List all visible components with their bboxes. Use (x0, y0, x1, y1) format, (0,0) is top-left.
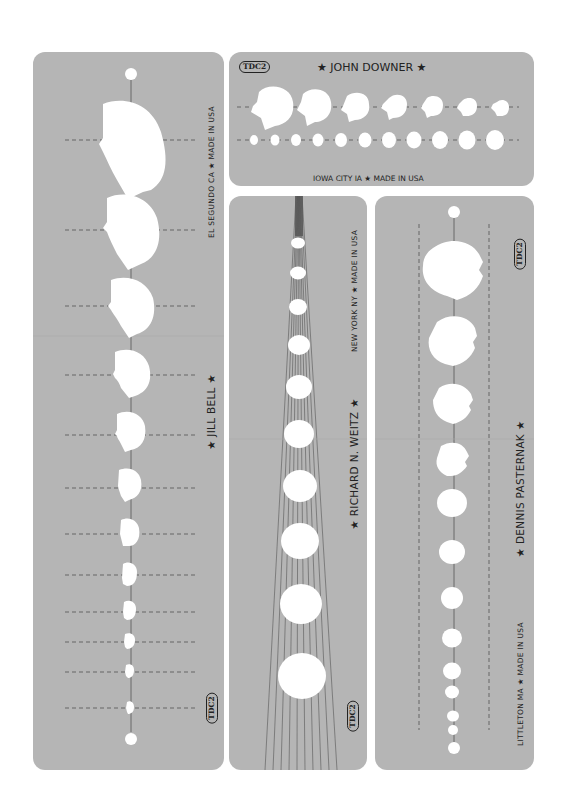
dennis-pasternak-name: ★ DENNIS PASTERNAK ★ (514, 421, 526, 558)
richard-weitz-template: NEW YORK NY ★ MADE IN USA ★ RICHARD N. W… (229, 196, 367, 770)
jill-bell-template: EL SEGUNDO CA ★ MADE IN USA ★ JILL BELL … (33, 52, 224, 770)
dennis-pasternak-origin-text: LITTLETON MA ★ MADE IN USA (516, 622, 525, 746)
jill-bell-head-cutouts (33, 52, 224, 770)
richard-weitz-origin-text: NEW YORK NY ★ MADE IN USA (350, 230, 359, 352)
dennis-pasternak-template: TDC2 ★ DENNIS PASTERNAK ★ LITTLETON MA ★… (375, 196, 534, 770)
john-downer-origin-text: IOWA CITY IA ★ MADE IN USA (313, 174, 424, 183)
richard-weitz-name: ★ RICHARD N. WEITZ ★ (348, 398, 360, 529)
jill-bell-tdc2-badge: TDC2 (206, 692, 218, 723)
dennis-pasternak-tdc2-badge: TDC2 (514, 238, 526, 269)
john-downer-head-cutouts (229, 52, 534, 186)
john-downer-template: TDC2 ★ JOHN DOWNER ★ IOWA CITY (229, 52, 534, 186)
dennis-pasternak-head-cutouts (375, 196, 534, 770)
jill-bell-origin-text: EL SEGUNDO CA ★ MADE IN USA (207, 106, 216, 238)
richard-weitz-head-cutouts (229, 196, 367, 770)
richard-weitz-tdc2-badge: TDC2 (347, 700, 359, 731)
jill-bell-name: ★ JILL BELL ★ (205, 374, 217, 450)
